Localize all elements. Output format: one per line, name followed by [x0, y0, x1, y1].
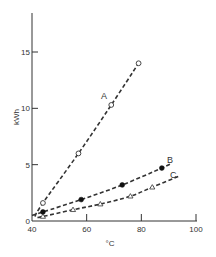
y-tick-label: 10	[21, 104, 30, 113]
series-line	[35, 63, 139, 216]
data-point-marker	[150, 185, 155, 189]
series-label-a: A	[101, 91, 107, 101]
series-label-b: B	[167, 155, 173, 165]
y-axis-label: kWh	[12, 109, 21, 125]
x-tick-label: 60	[82, 225, 91, 234]
data-point-marker	[76, 151, 81, 156]
data-point-marker	[128, 194, 133, 198]
y-tick-label: 15	[21, 48, 30, 57]
x-tick-label: 100	[189, 225, 203, 234]
x-ticks: 406080100	[28, 214, 204, 234]
series-layer	[32, 61, 180, 218]
data-point-marker	[109, 103, 114, 108]
series-c	[37, 176, 179, 218]
data-point-marker	[136, 61, 141, 66]
x-axis-label: °C	[106, 239, 115, 248]
series-a	[35, 61, 141, 217]
series-label-c: C	[170, 170, 177, 180]
x-tick-label: 80	[137, 225, 146, 234]
data-point-marker	[120, 183, 125, 188]
data-point-marker	[159, 166, 164, 171]
axes	[32, 13, 197, 221]
y-tick-label: 5	[26, 161, 31, 170]
x-tick-label: 40	[28, 225, 37, 234]
data-point-marker	[79, 197, 84, 202]
y-ticks: 051015	[21, 48, 38, 226]
data-point-marker	[41, 201, 46, 206]
energy-vs-temperature-chart: 051015 406080100 kWh °C A B C	[0, 0, 216, 257]
